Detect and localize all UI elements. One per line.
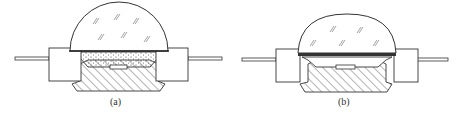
block-left [276, 49, 300, 82]
lead-left [242, 58, 276, 61]
lead-right [188, 57, 222, 60]
panel-b-label: (b) [338, 96, 350, 107]
phosphor-layer [298, 53, 396, 56]
block-left [49, 48, 81, 81]
lead-right [414, 58, 448, 61]
dome-lens [298, 14, 396, 53]
dome-lens [70, 2, 168, 51]
block-right [156, 48, 188, 81]
panel-a-label: (a) [110, 96, 121, 107]
led-chip [336, 65, 355, 69]
panel-b [242, 14, 448, 92]
lead-left [15, 57, 49, 60]
diagram-canvas [0, 0, 456, 118]
panel-a [15, 2, 222, 91]
led-chip [110, 65, 127, 69]
block-right [394, 49, 418, 82]
